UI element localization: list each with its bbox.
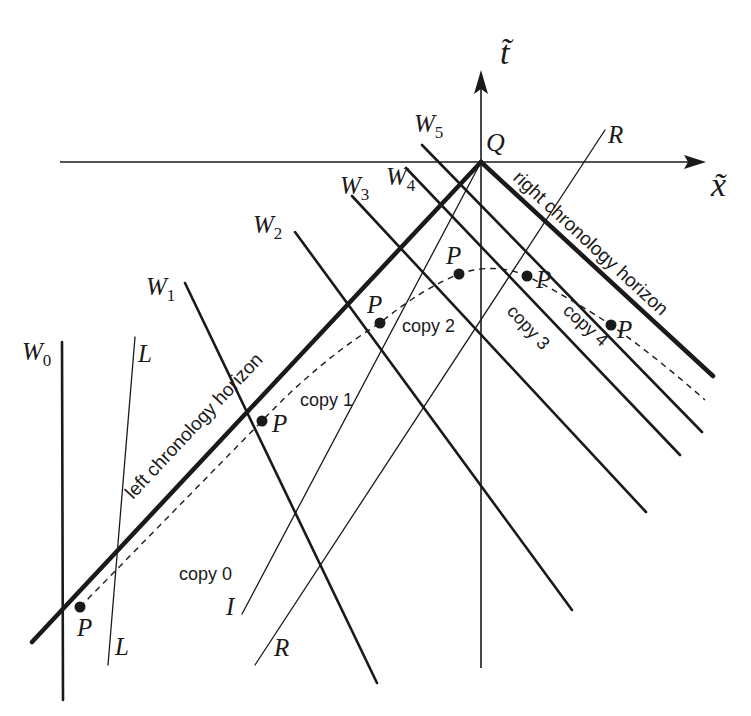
- x-axis-label: x̃: [710, 166, 727, 203]
- particle-label-1: P: [271, 410, 287, 437]
- line-r-top-label: R: [607, 121, 623, 148]
- particle-dot-3: [454, 269, 465, 280]
- worldline-w4-label: W4: [386, 163, 416, 195]
- line-i-label: I: [225, 593, 236, 620]
- line-r-bottom-label: R: [273, 634, 289, 661]
- particle-dot-5: [606, 320, 617, 331]
- copy-4-label: copy 4: [559, 300, 612, 350]
- particle-dot-2: [375, 318, 386, 329]
- line-l-top-label: L: [137, 340, 152, 367]
- chronology-horizons: left chronology horizon right chronology…: [32, 162, 713, 642]
- worldline-w2-label: W2: [253, 211, 282, 243]
- left-horizon-label: left chronology horizon: [121, 349, 267, 503]
- copy-0-label: copy 0: [179, 564, 232, 584]
- line-l-bottom-label: L: [114, 633, 129, 660]
- spacetime-diagram: x̃ t̃ Q left chronology horizon right ch…: [0, 0, 751, 716]
- particle-dot-4: [522, 271, 533, 282]
- particle-dot-0: [75, 602, 86, 613]
- copy-2-label: copy 2: [402, 316, 455, 336]
- particle-dot-1: [257, 416, 268, 427]
- worldline-w0-label: W0: [22, 338, 51, 370]
- worldlines: W0 W1 W2 W3 W4 W5: [22, 110, 702, 700]
- particle-label-2: P: [366, 291, 382, 318]
- particle-label-5: P: [616, 316, 632, 343]
- origin-label-q: Q: [486, 128, 505, 157]
- particle-label-3: P: [445, 242, 461, 269]
- particle-label-4: P: [535, 266, 551, 293]
- worldline-w5: [422, 145, 702, 432]
- worldline-w1: [185, 283, 377, 683]
- copy-1-label: copy 1: [300, 390, 353, 410]
- particle-label-0: P: [76, 614, 92, 641]
- copy-3-label: copy 3: [503, 301, 554, 353]
- copy-labels: copy 0 copy 1 copy 2 copy 3 copy 4: [179, 300, 612, 584]
- t-axis-label: t̃: [500, 34, 514, 71]
- worldline-w2: [295, 232, 572, 610]
- worldline-w0: [62, 342, 63, 700]
- worldline-w5-label: W5: [414, 110, 443, 142]
- axes: x̃ t̃ Q: [60, 34, 727, 668]
- right-horizon-label: right chronology horizon: [509, 167, 672, 320]
- line-l: [108, 337, 135, 665]
- worldline-w1-label: W1: [146, 273, 175, 305]
